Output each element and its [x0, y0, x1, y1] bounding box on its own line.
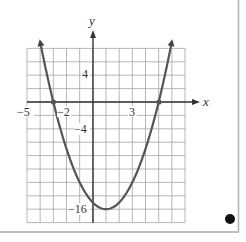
y-axis-label: y	[87, 13, 95, 28]
x-tick-label: −2	[57, 105, 70, 119]
y-tick-label: −16	[68, 202, 87, 216]
x-axis-label: x	[202, 94, 209, 109]
y-tick-label: 4	[82, 67, 88, 81]
x-axis-arrow-icon	[192, 99, 200, 105]
y-tick-label: −4	[74, 122, 87, 136]
bullet-dot	[225, 214, 235, 224]
curve-arrow-right-icon	[168, 39, 175, 47]
parabola-graph: y x −5 −2 3 4 −4 −16	[0, 0, 246, 242]
x-intercept-point	[51, 99, 56, 104]
y-axis-arrow-icon	[90, 30, 96, 38]
grid	[27, 48, 185, 222]
x-tick-label: −5	[17, 105, 30, 119]
y-axis	[90, 30, 96, 223]
x-intercept-point	[156, 99, 161, 104]
curve-arrow-left-icon	[38, 39, 45, 47]
x-tick-label: 3	[129, 105, 135, 119]
